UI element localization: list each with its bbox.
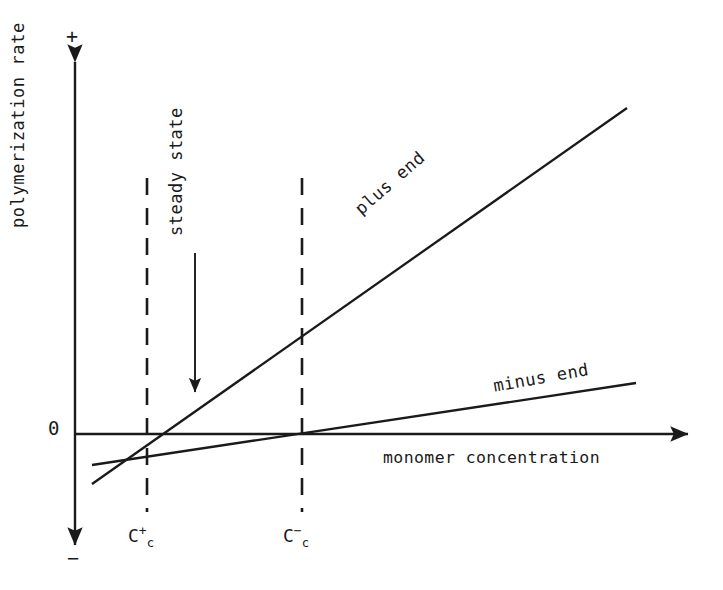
steady-state-annotation: steady state: [168, 107, 185, 236]
cc-plus-base: C: [128, 525, 139, 546]
y-axis-negative-sign: −: [67, 548, 79, 568]
polymerization-rate-figure: polymerization rate + − 0 monomer concen…: [0, 0, 723, 590]
y-axis-positive-sign: +: [66, 26, 78, 46]
cc-plus-subscript: c: [147, 536, 154, 550]
critical-concentration-minus-label: C−c: [283, 525, 309, 549]
critical-concentration-plus-label: C+c: [128, 525, 154, 549]
cc-minus-subscript: c: [302, 536, 309, 550]
cc-minus-superscript: −: [294, 523, 302, 538]
plot-canvas: [0, 0, 723, 590]
cc-plus-superscript: +: [139, 523, 147, 538]
y-axis-title: polymerization rate: [10, 0, 27, 228]
cc-minus-base: C: [283, 525, 294, 546]
x-axis-title: monomer concentration: [383, 450, 600, 467]
y-axis-zero-label: 0: [48, 419, 59, 438]
